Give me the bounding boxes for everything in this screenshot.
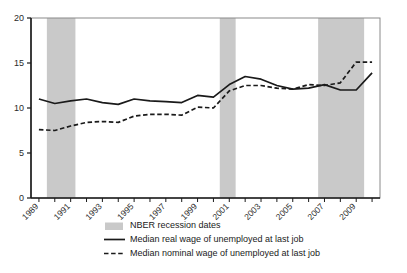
x-tick-label: 2009 (337, 201, 358, 222)
y-tick-label: 10 (14, 103, 24, 113)
legend-label: NBER recession dates (130, 220, 221, 230)
x-tick-label: 1993 (83, 201, 104, 222)
x-tick-label: 1997 (147, 201, 168, 222)
y-tick-label: 20 (14, 13, 24, 23)
recession-band-1 (47, 18, 76, 198)
x-tick-label: 2007 (305, 201, 326, 222)
recession-band-2 (220, 18, 236, 198)
y-tick-label: 15 (14, 58, 24, 68)
y-axis-ticks: 05101520 (14, 13, 31, 203)
x-tick-label: 1999 (179, 201, 200, 222)
chart-legend: NBER recession datesMedian real wage of … (104, 220, 320, 258)
legend-swatch-recession (105, 223, 123, 231)
recession-band-3 (318, 18, 364, 198)
x-tick-label: 2001 (210, 201, 231, 222)
x-tick-label: 1995 (115, 201, 136, 222)
x-tick-label: 1989 (20, 201, 41, 222)
x-tick-label: 2005 (274, 201, 295, 222)
legend-label: Median real wage of unemployed at last j… (130, 234, 304, 244)
y-tick-label: 0 (19, 193, 24, 203)
x-tick-label: 2003 (242, 201, 263, 222)
line-chart: 05101520 1989199119931995199719992001200… (0, 0, 407, 273)
y-tick-label: 5 (19, 148, 24, 158)
x-tick-label: 1991 (52, 201, 73, 222)
legend-label: Median nominal wage of unemployed at las… (130, 248, 320, 258)
chart-container: 05101520 1989199119931995199719992001200… (0, 0, 407, 273)
x-axis-ticks: 1989199119931995199719992001200320052007… (20, 198, 372, 222)
